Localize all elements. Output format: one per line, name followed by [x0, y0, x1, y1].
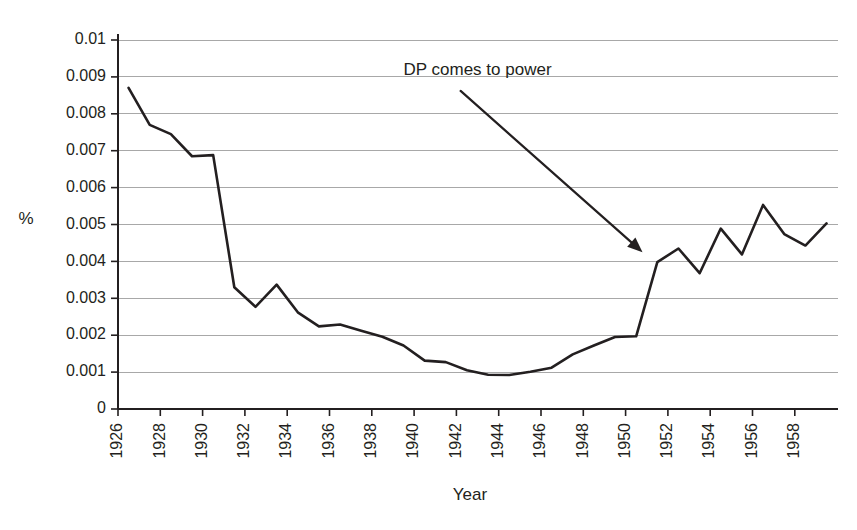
- y-tick-label: 0: [97, 399, 106, 416]
- y-tick-label: 0.001: [66, 362, 106, 379]
- y-tick-label: 0.008: [66, 104, 106, 121]
- x-tick-label: 1938: [362, 423, 379, 459]
- chart-figure: 00.0010.0020.0030.0040.0050.0060.0070.00…: [0, 0, 857, 530]
- x-tick-labels-group: 1926192819301932193419361938194019421944…: [108, 423, 802, 459]
- x-tick-label: 1946: [531, 423, 548, 459]
- x-axis-title: Year: [453, 485, 488, 504]
- y-tick-labels-group: 00.0010.0020.0030.0040.0050.0060.0070.00…: [66, 30, 106, 416]
- x-tick-label: 1940: [404, 423, 421, 459]
- x-tick-label: 1956: [743, 423, 760, 459]
- x-tick-label: 1928: [151, 423, 168, 459]
- y-tick-label: 0.002: [66, 325, 106, 342]
- x-tick-label: 1944: [489, 423, 506, 459]
- x-tick-label: 1942: [447, 423, 464, 459]
- y-tick-label: 0.007: [66, 141, 106, 158]
- axis-lines-group: [118, 34, 838, 409]
- x-tick-label: 1932: [235, 423, 252, 459]
- annotation-label: DP comes to power: [404, 60, 552, 79]
- x-tick-label: 1936: [320, 423, 337, 459]
- y-tick-label: 0.005: [66, 215, 106, 232]
- x-tick-label: 1958: [785, 423, 802, 459]
- series-line: [129, 88, 827, 375]
- y-tick-label: 0.006: [66, 178, 106, 195]
- y-tick-label: 0.004: [66, 252, 106, 269]
- gridlines-group: [118, 40, 838, 372]
- x-tick-label: 1926: [108, 423, 125, 459]
- data-series-line: [129, 88, 827, 375]
- y-axis-title: %: [18, 209, 33, 228]
- tick-marks-group: [111, 40, 795, 416]
- y-tick-label: 0.003: [66, 289, 106, 306]
- x-tick-label: 1930: [193, 423, 210, 459]
- x-tick-label: 1952: [658, 423, 675, 459]
- annotations-group: DP comes to power: [404, 60, 643, 252]
- line-chart: 00.0010.0020.0030.0040.0050.0060.0070.00…: [0, 0, 857, 530]
- y-tick-label: 0.009: [66, 67, 106, 84]
- x-tick-label: 1948: [574, 423, 591, 459]
- x-tick-label: 1950: [616, 423, 633, 459]
- y-tick-label: 0.01: [75, 30, 106, 47]
- x-tick-label: 1934: [277, 423, 294, 459]
- x-tick-label: 1954: [700, 423, 717, 459]
